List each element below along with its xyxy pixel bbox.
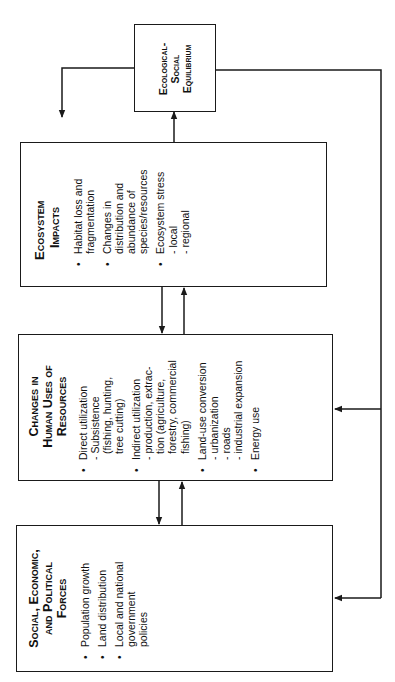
item-text: Direct utilization <box>77 341 89 460</box>
human-uses-box: Changes in Human Uses of Resources Direc… <box>18 334 333 481</box>
item-text: government <box>125 532 137 647</box>
item-subtext: tion (agriculture, <box>154 341 166 460</box>
item-text: Changes in <box>101 151 113 254</box>
list-item: Changes in distribution and abundance of… <box>101 151 149 266</box>
item-text: Land distribution <box>96 532 108 647</box>
title-line: Impacts <box>48 151 63 260</box>
item-text: Habitat loss and <box>72 151 84 254</box>
list-item: Land distribution <box>96 532 108 659</box>
equilibrium-title: Ecological- Social Equilibrium <box>158 43 193 96</box>
human-uses-title: Changes in Human Uses of Resources <box>27 341 69 472</box>
human-uses-items: Direct utilization - Subsistence (fishin… <box>77 341 261 472</box>
ecosystem-impacts-box: Ecosystem Impacts Habitat loss and fragm… <box>20 142 327 287</box>
title-line: Changes in <box>27 341 41 472</box>
equilibrium-box: Ecological- Social Equilibrium <box>134 24 216 112</box>
list-item: Local and national government policies <box>113 532 149 659</box>
list-item: Energy use <box>249 341 261 472</box>
title-line: Social, Economic, <box>27 532 41 665</box>
forces-box: Social, Economic, and Political Forces P… <box>16 525 333 672</box>
item-subtext: tree cutting) <box>113 341 125 460</box>
item-text: Ecosystem stress <box>154 151 166 254</box>
item-text: Population growth <box>79 532 91 647</box>
item-subtext: (fishing, hunting, <box>101 341 113 460</box>
item-subtext: - local <box>167 151 179 254</box>
item-text: Energy use <box>249 341 261 460</box>
item-subtext: - roads <box>220 341 232 460</box>
item-text: Indirect utilization <box>130 341 142 460</box>
item-text: Local and national <box>113 532 125 647</box>
forces-title: Social, Economic, and Political Forces <box>27 532 69 665</box>
list-item: Direct utilization - Subsistence (fishin… <box>77 341 125 472</box>
item-subtext: - industrial expansion <box>232 341 244 460</box>
item-subtext: forestry, commercial <box>166 341 178 460</box>
item-text: policies <box>137 532 149 647</box>
title-line: Equilibrium <box>182 43 194 96</box>
list-item: Ecosystem stress - local - regional <box>154 151 190 266</box>
item-text: distribution and <box>113 151 125 254</box>
ecosystem-content: Ecosystem Impacts Habitat loss and fragm… <box>21 143 328 288</box>
list-item: Population growth <box>79 532 91 659</box>
title-line: and Political <box>41 532 55 665</box>
item-text: species/resources <box>137 151 149 254</box>
item-text: fragmentation <box>84 151 96 254</box>
item-subtext: - regional <box>179 151 191 254</box>
item-subtext: fishing) <box>179 341 191 460</box>
ecosystem-items: Habitat loss and fragmentation Changes i… <box>72 151 191 266</box>
item-text: Land-use conversion <box>196 341 208 460</box>
item-subtext: - production, extrac- <box>142 341 154 460</box>
forces-items: Population growth Land distribution Loca… <box>79 532 149 665</box>
item-subtext: - Subsistence <box>89 341 101 460</box>
list-item: Indirect utilization - production, extra… <box>130 341 190 472</box>
title-line: Forces <box>55 532 69 665</box>
title-line: Ecosystem <box>33 151 48 260</box>
title-line: Resources <box>55 341 69 472</box>
list-item: Habitat loss and fragmentation <box>72 151 96 266</box>
ecosystem-title: Ecosystem Impacts <box>33 151 62 266</box>
human-uses-content: Changes in Human Uses of Resources Direc… <box>19 335 334 482</box>
forces-content: Social, Economic, and Political Forces P… <box>17 526 334 673</box>
title-line: Human Uses of <box>41 341 55 472</box>
list-item: Land-use conversion - urbanization - roa… <box>196 341 244 472</box>
equilibrium-content: Ecological- Social Equilibrium <box>135 25 217 113</box>
item-subtext: - urbanization <box>208 341 220 460</box>
item-text: abundance of <box>125 151 137 254</box>
